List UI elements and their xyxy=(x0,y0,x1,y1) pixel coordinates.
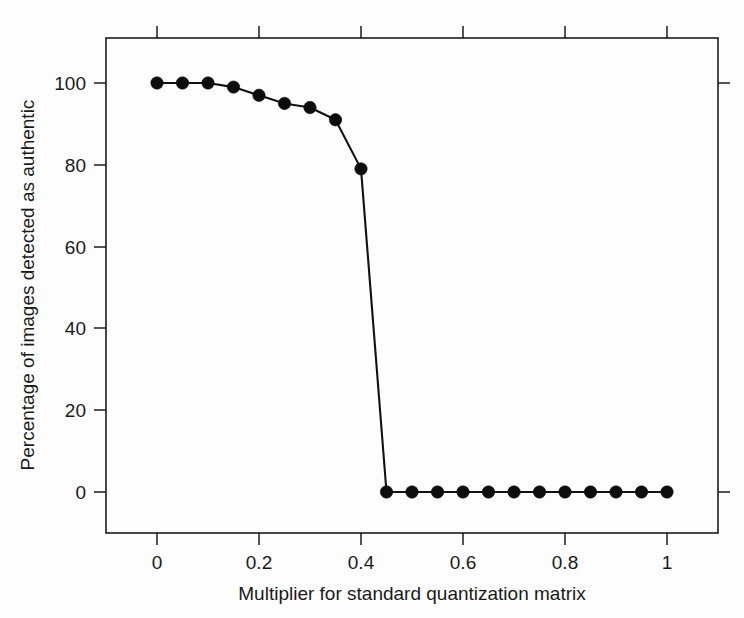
data-point xyxy=(457,486,469,498)
data-point xyxy=(329,114,341,126)
data-point xyxy=(610,486,622,498)
x-axis-ticks-bottom xyxy=(157,533,667,545)
x-tick-label: 0.2 xyxy=(246,552,272,573)
data-point xyxy=(227,81,239,93)
data-point xyxy=(533,486,545,498)
data-point xyxy=(380,486,392,498)
data-point xyxy=(278,97,290,109)
y-tick-label: 0 xyxy=(75,482,86,503)
x-tick-label: 1 xyxy=(662,552,673,573)
y-axis-tick-labels: 0 20 40 60 80 100 xyxy=(54,73,86,503)
data-point xyxy=(151,77,163,89)
x-tick-label: 0.4 xyxy=(348,552,375,573)
data-point xyxy=(635,486,647,498)
series-line xyxy=(157,83,667,492)
x-tick-label: 0.6 xyxy=(450,552,476,573)
plot-frame xyxy=(106,38,718,533)
y-axis-ticks-left xyxy=(94,83,106,492)
y-axis-ticks-right xyxy=(718,83,730,492)
x-tick-label: 0 xyxy=(152,552,163,573)
data-point xyxy=(355,163,367,175)
y-tick-label: 40 xyxy=(65,318,86,339)
x-tick-label: 0.8 xyxy=(552,552,578,573)
data-point xyxy=(304,101,316,113)
figure-panel: 0 0.2 0.4 0.6 0.8 1 0 20 40 60 80 100 Mu… xyxy=(0,0,744,618)
data-point xyxy=(406,486,418,498)
data-point xyxy=(661,486,673,498)
y-axis-title: Percentage of images detected as authent… xyxy=(17,100,38,471)
data-point xyxy=(508,486,520,498)
series-markers xyxy=(151,77,673,498)
y-tick-label: 100 xyxy=(54,73,86,94)
data-point xyxy=(584,486,596,498)
data-point xyxy=(559,486,571,498)
x-axis-ticks-top xyxy=(157,26,667,38)
data-point xyxy=(202,77,214,89)
y-tick-label: 80 xyxy=(65,155,86,176)
data-point xyxy=(253,89,265,101)
y-tick-label: 20 xyxy=(65,400,86,421)
data-point xyxy=(431,486,443,498)
data-point xyxy=(176,77,188,89)
x-axis-tick-labels: 0 0.2 0.4 0.6 0.8 1 xyxy=(152,552,673,573)
y-tick-label: 60 xyxy=(65,237,86,258)
line-chart: 0 0.2 0.4 0.6 0.8 1 0 20 40 60 80 100 Mu… xyxy=(0,0,744,618)
data-point xyxy=(482,486,494,498)
x-axis-title: Multiplier for standard quantization mat… xyxy=(238,583,586,604)
